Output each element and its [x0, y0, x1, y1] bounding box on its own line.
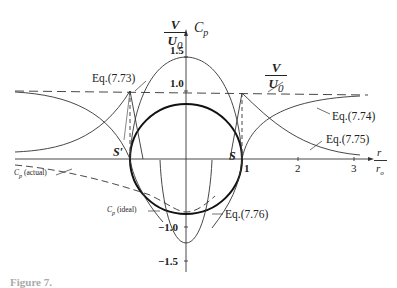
s-prime-point-label: S′ — [113, 146, 123, 158]
x-tick-2: 2 — [295, 163, 301, 174]
eq-775-label: Eq.(7.75) — [326, 134, 369, 146]
y-tick-1-5: 1.5 — [170, 45, 184, 56]
eq-775-curve — [242, 93, 360, 155]
cp-ideal-label: Cp (ideal) — [107, 206, 136, 216]
s-point-label: S — [229, 150, 236, 162]
y-tick-neg-1-5: −1.5 — [158, 256, 178, 267]
v-over-u0-annotation: V U0 — [265, 61, 287, 94]
free-stream-dashed-line — [15, 91, 368, 95]
x-tick-1: 1 — [244, 163, 250, 174]
eq-773-left-rising-curve — [15, 91, 130, 152]
x-axis-ro-label: ro — [376, 163, 384, 177]
eq-774-label: Eq.(7.74) — [332, 111, 375, 123]
cp-actual-label: Cp (actual) — [14, 169, 47, 179]
figure-caption-fragment: Figure 7. — [10, 277, 52, 288]
x-axis-r-label: r — [377, 147, 381, 158]
y-tick-neg-1-0: −1.0 — [158, 222, 178, 233]
eq-773-label: Eq.(7.73) — [92, 73, 135, 85]
x-tick-3: 3 — [351, 163, 357, 174]
x-axis-fraction-bar — [374, 160, 387, 161]
y-axis-cp-label: Cp — [194, 21, 208, 38]
eq-776-label: Eq.(7.76) — [225, 209, 268, 221]
eq-774-curve — [242, 96, 360, 159]
y-tick-1-0: 1.0 — [170, 78, 184, 89]
